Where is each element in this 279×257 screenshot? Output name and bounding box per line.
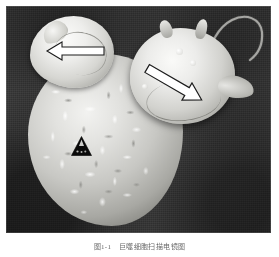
micrograph-figure	[6, 6, 271, 233]
micrograph-border	[6, 6, 271, 233]
figure-caption: 图1-1 巨噬细胞扫描电镜图	[0, 243, 279, 252]
figure-page: 图1-1 巨噬细胞扫描电镜图	[0, 0, 279, 257]
